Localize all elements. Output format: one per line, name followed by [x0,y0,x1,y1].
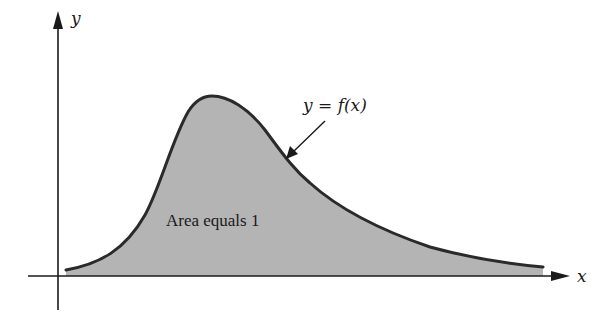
x-axis-label: x [577,266,587,286]
area-label: Area equals 1 [166,211,259,230]
density-diagram: y x y = f(x) Area equals 1 [0,0,613,317]
shaded-area [66,96,543,276]
curve-label: y = f(x) [302,95,367,115]
y-axis-label: y [70,8,81,28]
y-axis-arrow-icon [53,11,63,29]
curve-pointer-line [293,121,325,152]
x-axis-arrow-icon [551,271,570,281]
